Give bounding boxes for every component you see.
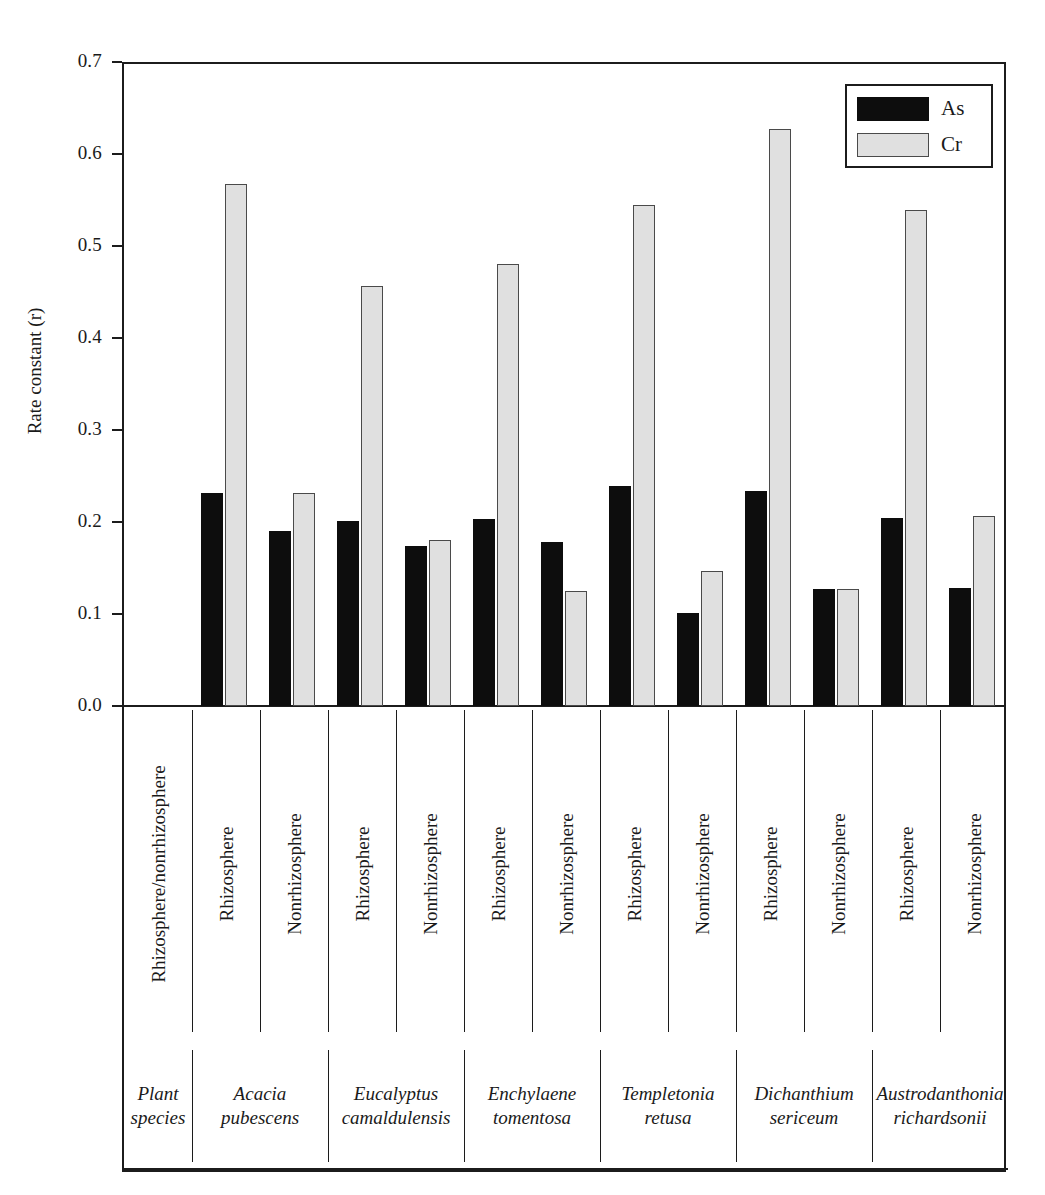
column-divider — [192, 710, 193, 1032]
y-axis-tick-label: 0.0 — [46, 695, 102, 714]
column-divider — [328, 710, 329, 1032]
column-divider — [668, 710, 669, 1032]
species-label: Austrodanthonia richardsonii — [872, 1082, 1008, 1130]
category-table: Rhizosphere/nonrhizosphereRhizosphereNon… — [122, 706, 1006, 1172]
condition-label: Rhizosphere — [761, 827, 780, 922]
bar-cr — [769, 129, 791, 706]
condition-cell: Rhizosphere — [328, 706, 396, 1042]
y-axis-tick-mark — [112, 61, 122, 63]
legend-label-cr: Cr — [941, 130, 962, 158]
y-axis-tick-label: 0.3 — [46, 419, 102, 438]
condition-cell: Rhizosphere — [736, 706, 804, 1042]
species-cell: Templetonia retusa — [600, 1042, 736, 1170]
condition-cell: Nonrhizosphere — [532, 706, 600, 1042]
condition-label: Nonrhizosphere — [965, 813, 984, 934]
condition-cell: Rhizosphere — [192, 706, 260, 1042]
bar-as — [337, 521, 359, 706]
species-label: Plant species — [124, 1082, 192, 1130]
y-axis-title: Rate constant (r) — [24, 276, 46, 466]
bar-cr — [905, 210, 927, 706]
condition-cell: Nonrhizosphere — [940, 706, 1008, 1042]
bar-as — [949, 588, 971, 706]
condition-label: Rhizosphere — [897, 827, 916, 922]
species-label: Eucalyptus camaldulensis — [328, 1082, 464, 1130]
bar-cr — [361, 286, 383, 706]
condition-cell: Nonrhizosphere — [804, 706, 872, 1042]
y-axis-tick-label: 0.6 — [46, 143, 102, 162]
species-row-header-cell: Plant species — [124, 1042, 192, 1170]
y-axis-tick-mark — [112, 705, 122, 707]
species-cell: Enchylaene tomentosa — [464, 1042, 600, 1170]
species-row: Plant speciesAcacia pubescensEucalyptus … — [124, 1042, 1008, 1170]
column-divider — [600, 710, 601, 1032]
species-cell: Dichanthium sericeum — [736, 1042, 872, 1170]
condition-label: Nonrhizosphere — [557, 813, 576, 934]
y-axis-tick-mark — [112, 429, 122, 431]
y-axis-tick-mark — [112, 153, 122, 155]
bar-as — [541, 542, 563, 706]
condition-row: Rhizosphere/nonrhizosphereRhizosphereNon… — [124, 706, 1008, 1042]
bar-cr — [701, 571, 723, 706]
condition-label: Nonrhizosphere — [829, 813, 848, 934]
y-axis-tick-mark — [112, 245, 122, 247]
bar-cr — [633, 205, 655, 706]
y-axis-tick-mark — [112, 337, 122, 339]
column-divider — [940, 710, 941, 1032]
condition-label: Rhizosphere — [625, 827, 644, 922]
condition-label: Nonrhizosphere — [421, 813, 440, 934]
condition-cell: Rhizosphere — [872, 706, 940, 1042]
legend-swatch-cr-icon — [857, 133, 929, 157]
bar-as — [473, 519, 495, 706]
column-divider — [192, 1050, 193, 1162]
species-label: Templetonia retusa — [600, 1082, 736, 1130]
bar-as — [405, 546, 427, 706]
column-divider — [532, 710, 533, 1032]
column-divider — [736, 710, 737, 1032]
species-cell: Austrodanthonia richardsonii — [872, 1042, 1008, 1170]
bar-as — [813, 589, 835, 706]
species-cell: Eucalyptus camaldulensis — [328, 1042, 464, 1170]
column-divider — [736, 1050, 737, 1162]
condition-label: Rhizosphere — [353, 827, 372, 922]
condition-cell: Rhizosphere — [464, 706, 532, 1042]
bar-as — [201, 493, 223, 706]
column-divider — [464, 1050, 465, 1162]
condition-label: Nonrhizosphere — [693, 813, 712, 934]
table-bottom-line — [124, 1168, 1008, 1170]
y-axis-tick-label: 0.2 — [46, 511, 102, 530]
species-label: Acacia pubescens — [192, 1082, 328, 1130]
condition-label: Rhizosphere — [489, 827, 508, 922]
bar-as — [269, 531, 291, 706]
legend-swatch-as-icon — [857, 97, 929, 121]
column-divider — [328, 1050, 329, 1162]
species-cell: Acacia pubescens — [192, 1042, 328, 1170]
column-divider — [600, 1050, 601, 1162]
bar-cr — [293, 493, 315, 706]
species-label: Dichanthium sericeum — [736, 1082, 872, 1130]
condition-row-header-cell: Rhizosphere/nonrhizosphere — [124, 706, 192, 1042]
bar-as — [677, 613, 699, 706]
bar-as — [745, 491, 767, 706]
bar-cr — [565, 591, 587, 706]
bar-cr — [497, 264, 519, 706]
bar-cr — [429, 540, 451, 706]
condition-cell: Nonrhizosphere — [396, 706, 464, 1042]
y-axis-tick-label: 0.1 — [46, 603, 102, 622]
y-axis-tick-mark — [112, 521, 122, 523]
column-divider — [804, 710, 805, 1032]
bar-cr — [225, 184, 247, 706]
condition-label: Rhizosphere/nonrhizosphere — [149, 765, 168, 982]
legend-label-as: As — [941, 94, 964, 122]
y-axis-tick-label: 0.4 — [46, 327, 102, 346]
condition-label: Nonrhizosphere — [285, 813, 304, 934]
bar-as — [881, 518, 903, 706]
bar-cr — [973, 516, 995, 706]
bar-as — [609, 486, 631, 706]
species-label: Enchylaene tomentosa — [464, 1082, 600, 1130]
y-axis-tick-label: 0.7 — [46, 51, 102, 70]
column-divider — [872, 1050, 873, 1162]
y-axis-tick-label: 0.5 — [46, 235, 102, 254]
condition-cell: Nonrhizosphere — [260, 706, 328, 1042]
y-axis-tick-mark — [112, 613, 122, 615]
column-divider — [396, 710, 397, 1032]
